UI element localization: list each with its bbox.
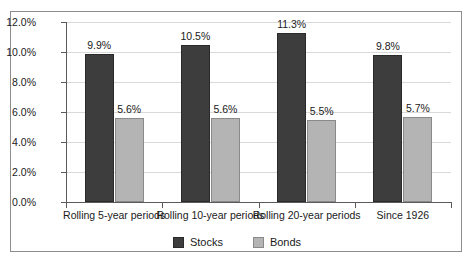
y-axis-tick-label: 10.0% bbox=[0, 46, 36, 58]
category-separator bbox=[259, 202, 260, 208]
category-separator bbox=[162, 202, 163, 208]
category-label-3: Since 1926 bbox=[348, 209, 458, 222]
bar-value-label: 10.5% bbox=[180, 30, 210, 42]
legend-label: Stocks bbox=[190, 236, 223, 248]
y-axis-tick-label: 4.0% bbox=[0, 136, 36, 148]
y-axis-tick-label: 12.0% bbox=[0, 16, 36, 28]
bar-stocks-1 bbox=[181, 45, 210, 203]
bar-stocks-0 bbox=[85, 54, 114, 203]
bar-bonds-2 bbox=[307, 120, 336, 203]
bar-value-label: 9.9% bbox=[87, 39, 111, 51]
category-separator bbox=[355, 202, 356, 208]
bar-value-label: 11.3% bbox=[277, 18, 306, 30]
bar-value-label: 9.8% bbox=[376, 40, 400, 52]
category-separator bbox=[451, 202, 452, 208]
bar-bonds-0 bbox=[115, 118, 144, 202]
y-axis-tick-label: 2.0% bbox=[0, 166, 36, 178]
y-axis-tick-label: 8.0% bbox=[0, 76, 36, 88]
category-separator bbox=[66, 202, 67, 208]
y-axis-tick-label: 6.0% bbox=[0, 106, 36, 118]
bar-value-label: 5.7% bbox=[406, 102, 430, 114]
y-axis-tick-label: 0.0% bbox=[0, 196, 36, 208]
legend-item-bonds[interactable]: Bonds bbox=[253, 236, 301, 248]
category-label-1: Rolling 10-year periods bbox=[155, 209, 265, 222]
legend-swatch-stocks-icon bbox=[173, 237, 184, 248]
bar-stocks-3 bbox=[373, 55, 402, 202]
plot-area: 9.9%5.6%10.5%5.6%11.3%5.5%9.8%5.7% bbox=[66, 22, 451, 202]
category-label-0: Rolling 5-year periods bbox=[59, 209, 169, 222]
chart-legend: StocksBonds bbox=[11, 236, 463, 248]
legend-item-stocks[interactable]: Stocks bbox=[173, 236, 223, 248]
bar-bonds-1 bbox=[211, 118, 240, 202]
legend-swatch-bonds-icon bbox=[253, 237, 264, 248]
legend-label: Bonds bbox=[270, 236, 301, 248]
bar-stocks-2 bbox=[277, 33, 306, 203]
category-label-2: Rolling 20-year periods bbox=[252, 209, 362, 222]
bar-value-label: 5.5% bbox=[310, 105, 334, 117]
bar-bonds-3 bbox=[403, 117, 432, 203]
chart-frame: 0.0%2.0%4.0%6.0%8.0%10.0%12.0% 9.9%5.6%1… bbox=[10, 11, 462, 252]
bar-value-label: 5.6% bbox=[213, 103, 237, 115]
bar-value-label: 5.6% bbox=[117, 103, 141, 115]
